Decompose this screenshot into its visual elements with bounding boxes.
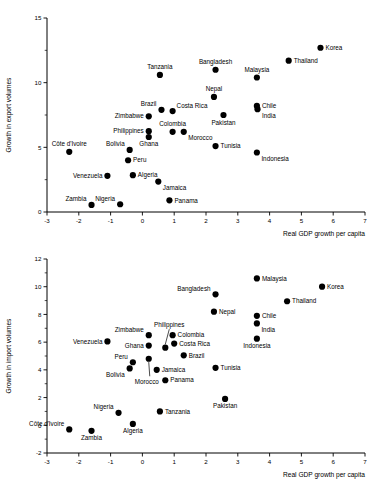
data-point[interactable]: Jamaica xyxy=(154,366,186,373)
data-point[interactable]: Indonesia xyxy=(243,336,271,350)
point-marker[interactable] xyxy=(130,172,136,178)
point-marker[interactable] xyxy=(317,45,323,51)
data-point[interactable]: Côte d'Ivoire xyxy=(29,420,72,433)
point-marker[interactable] xyxy=(254,336,260,342)
point-marker[interactable] xyxy=(254,313,260,319)
data-point[interactable]: Indonesia xyxy=(254,149,289,162)
point-marker[interactable] xyxy=(158,107,164,113)
data-point[interactable]: Tanzania xyxy=(147,63,173,78)
point-marker[interactable] xyxy=(212,365,218,371)
data-point[interactable]: Colombia xyxy=(170,331,205,338)
point-marker[interactable] xyxy=(88,202,94,208)
data-point[interactable]: Costa Rica xyxy=(170,102,208,115)
data-point[interactable]: Thailand xyxy=(284,297,317,304)
point-marker[interactable] xyxy=(171,340,177,346)
point-marker[interactable] xyxy=(211,309,217,315)
point-marker[interactable] xyxy=(254,106,260,112)
data-point[interactable]: Bolivia xyxy=(106,140,133,153)
data-point[interactable]: Ghana xyxy=(139,134,158,148)
data-point[interactable]: Ghana xyxy=(125,342,152,349)
point-marker[interactable] xyxy=(286,58,292,64)
point-marker[interactable] xyxy=(154,367,160,373)
data-point[interactable]: Panama xyxy=(166,197,198,204)
data-point[interactable]: Nigeria xyxy=(94,403,122,416)
point-marker[interactable] xyxy=(130,421,136,427)
point-marker[interactable] xyxy=(146,134,152,140)
point-marker[interactable] xyxy=(170,332,176,338)
data-point[interactable]: Zimbabwe xyxy=(115,112,152,119)
point-marker[interactable] xyxy=(88,428,94,434)
data-point[interactable]: Chile xyxy=(254,312,277,319)
data-point[interactable]: Morocco xyxy=(181,129,213,142)
data-point[interactable]: Brazil xyxy=(181,352,205,359)
data-point[interactable]: Thailand xyxy=(286,57,319,64)
point-marker[interactable] xyxy=(254,320,260,326)
point-marker[interactable] xyxy=(170,129,176,135)
point-marker[interactable] xyxy=(157,408,163,414)
point-marker[interactable] xyxy=(254,74,260,80)
data-point[interactable]: Panama xyxy=(162,376,194,383)
data-point[interactable]: Côte d'Ivoire xyxy=(52,140,88,155)
point-marker[interactable] xyxy=(146,356,152,362)
point-marker[interactable] xyxy=(155,179,161,185)
data-point[interactable]: Algeria xyxy=(130,171,158,179)
data-point[interactable]: Nepal xyxy=(211,308,236,316)
point-marker[interactable] xyxy=(254,149,260,155)
data-point[interactable]: Brazil xyxy=(141,100,165,113)
data-point[interactable]: Tunisia xyxy=(212,364,241,371)
point-marker[interactable] xyxy=(146,332,152,338)
data-point[interactable]: Malaysia xyxy=(244,66,269,81)
data-point[interactable]: Peru xyxy=(125,156,147,163)
data-point[interactable]: Bolivia xyxy=(106,365,133,378)
point-marker[interactable] xyxy=(162,377,168,383)
data-point[interactable]: Zambia xyxy=(66,195,95,208)
data-point[interactable]: Zimbabwe xyxy=(115,326,152,339)
data-point[interactable]: Costa Rica xyxy=(171,340,210,347)
point-marker[interactable] xyxy=(66,426,72,432)
point-marker[interactable] xyxy=(104,173,110,179)
point-marker[interactable] xyxy=(222,396,228,402)
point-marker[interactable] xyxy=(157,72,163,78)
data-point[interactable]: Pakistan xyxy=(213,396,238,410)
point-marker[interactable] xyxy=(254,275,260,281)
data-point[interactable]: Venezuela xyxy=(73,172,111,179)
point-marker[interactable] xyxy=(130,359,136,365)
data-point[interactable]: Nigeria xyxy=(95,195,123,208)
data-point[interactable]: Tanzania xyxy=(157,408,191,415)
point-marker[interactable] xyxy=(127,147,133,153)
data-point[interactable]: Peru xyxy=(115,353,136,366)
point-marker[interactable] xyxy=(125,157,131,163)
point-marker[interactable] xyxy=(146,128,152,134)
data-point[interactable]: Philippines xyxy=(113,127,152,135)
data-point[interactable]: Algeria xyxy=(123,421,143,436)
point-marker[interactable] xyxy=(170,108,176,114)
point-marker[interactable] xyxy=(115,410,121,416)
data-point[interactable]: Bangladesh xyxy=(177,285,218,298)
point-marker[interactable] xyxy=(319,284,325,290)
point-marker[interactable] xyxy=(166,197,172,203)
data-point[interactable]: Zambia xyxy=(81,428,102,442)
point-marker[interactable] xyxy=(146,343,152,349)
data-point[interactable]: Nepal xyxy=(206,85,222,100)
point-marker[interactable] xyxy=(104,338,110,344)
point-marker[interactable] xyxy=(66,149,72,155)
point-marker[interactable] xyxy=(181,129,187,135)
point-marker[interactable] xyxy=(211,94,217,100)
point-marker[interactable] xyxy=(220,112,226,118)
point-marker[interactable] xyxy=(127,365,133,371)
data-point[interactable]: Malaysia xyxy=(254,275,287,283)
data-point[interactable]: Korea xyxy=(317,44,342,51)
data-point[interactable]: India xyxy=(254,320,276,333)
data-point[interactable]: Jamaica xyxy=(155,179,187,192)
point-marker[interactable] xyxy=(117,201,123,207)
point-marker[interactable] xyxy=(181,352,187,358)
data-point[interactable]: Venezuela xyxy=(73,338,111,345)
data-point[interactable]: Tunisia xyxy=(212,142,241,149)
point-marker[interactable] xyxy=(162,345,168,351)
data-point[interactable]: Bangladesh xyxy=(199,58,233,73)
point-marker[interactable] xyxy=(212,143,218,149)
data-point[interactable]: Pakistan xyxy=(211,112,236,126)
data-point[interactable]: Korea xyxy=(319,283,344,290)
point-marker[interactable] xyxy=(284,298,290,304)
point-marker[interactable] xyxy=(146,113,152,119)
